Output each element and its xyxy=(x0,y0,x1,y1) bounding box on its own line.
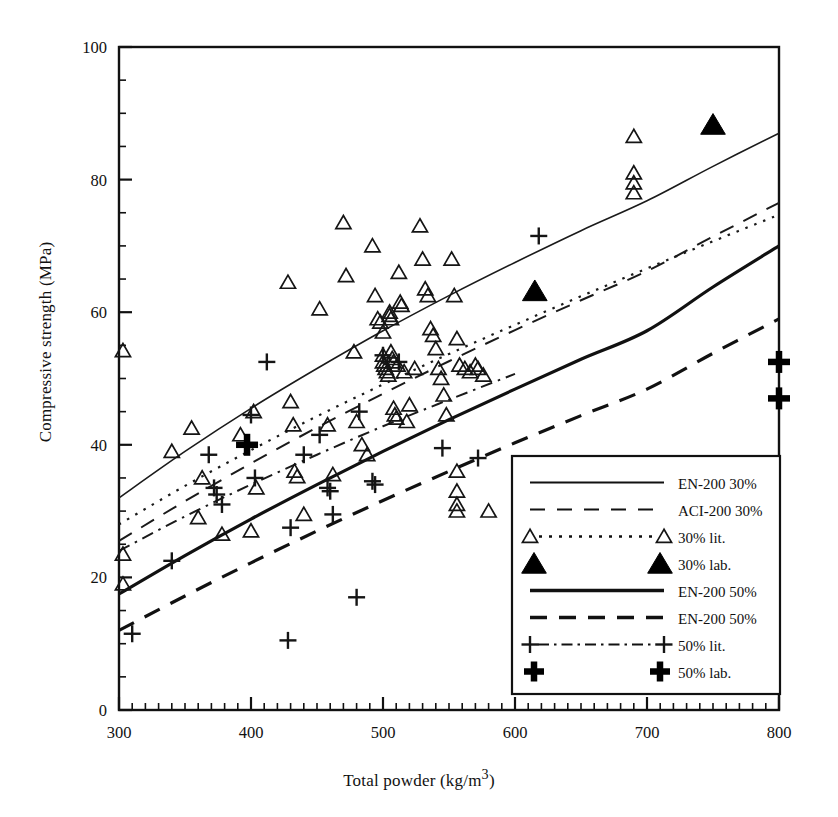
legend-label: EN-200 50% xyxy=(678,611,757,627)
legend-box: EN-200 30%ACI-200 30%30% lit.30% lab.EN-… xyxy=(512,456,780,694)
legend-label: ACI-200 30% xyxy=(678,503,763,519)
y-tick-label: 40 xyxy=(91,436,108,455)
x-tick-label: 700 xyxy=(635,723,660,742)
data-point-30-lit xyxy=(338,269,353,282)
legend-label: 50% lab. xyxy=(678,665,731,681)
data-point-50-lit xyxy=(530,227,547,244)
data-point-30-lit xyxy=(391,265,406,278)
x-tick-label: 600 xyxy=(503,723,528,742)
curve-lit_50 xyxy=(119,374,515,551)
data-point-lab_30 xyxy=(522,280,547,301)
data-point-50-lit xyxy=(364,473,381,490)
data-point-30-lit xyxy=(243,524,258,537)
x-tick-label: 800 xyxy=(767,723,792,742)
data-point-30-lit xyxy=(449,484,464,497)
data-point-lab_30 xyxy=(701,114,726,135)
x-axis-label: Total powder (kg/m3) xyxy=(0,766,838,791)
x-axis-label-text: Total powder (kg/m3) xyxy=(343,771,495,790)
data-point-30-lit xyxy=(481,504,496,517)
data-point-50-lit xyxy=(258,353,275,370)
data-point-30-lit xyxy=(349,414,364,427)
data-point-lab_50 xyxy=(236,434,258,456)
data-point-30-lit xyxy=(386,401,401,414)
data-point-lab_50 xyxy=(768,351,790,373)
data-point-30-lit xyxy=(280,275,295,288)
legend-label: 30% lab. xyxy=(678,557,731,573)
plot-canvas: 300400500600700800020406080100 EN-200 30… xyxy=(0,0,838,817)
data-point-50-lit xyxy=(470,450,487,467)
x-tick-label: 400 xyxy=(239,723,264,742)
x-tick-label: 500 xyxy=(371,723,396,742)
chart-figure: 300400500600700800020406080100 EN-200 30… xyxy=(0,0,838,817)
data-point-50-lit xyxy=(367,476,384,493)
legend-label: EN-200 50% xyxy=(678,584,757,600)
data-point-50-lit xyxy=(295,446,312,463)
data-point-30-lit xyxy=(283,395,298,408)
data-point-50-lit xyxy=(311,426,328,443)
data-point-50-lit xyxy=(322,483,339,500)
x-tick-label: 300 xyxy=(107,723,132,742)
data-point-50-lit xyxy=(246,469,263,486)
y-tick-label: 20 xyxy=(91,568,108,587)
data-point-50-lit xyxy=(279,632,296,649)
data-point-30-lit xyxy=(434,371,449,384)
data-point-30-lit xyxy=(402,398,417,411)
data-point-30-lit xyxy=(249,481,264,494)
data-point-30-lit xyxy=(296,507,311,520)
data-point-30-lit xyxy=(415,252,430,265)
data-point-30-lit xyxy=(312,302,327,315)
curve-en200_30 xyxy=(119,133,779,498)
data-point-50-lit xyxy=(282,519,299,536)
data-point-30-lit xyxy=(164,444,179,457)
data-point-30-lit xyxy=(365,239,380,252)
legend-label: EN-200 30% xyxy=(678,476,757,492)
data-point-30-lit xyxy=(444,252,459,265)
y-tick-label: 100 xyxy=(82,38,107,57)
data-point-30-lit xyxy=(336,215,351,228)
data-point-lab_50 xyxy=(768,387,790,409)
data-point-30-lit xyxy=(412,219,427,232)
y-axis-label: Compressive strength (MPa) xyxy=(36,192,56,492)
data-point-30-lit xyxy=(428,341,443,354)
data-point-30-lit xyxy=(449,332,464,345)
data-point-50-lit xyxy=(200,446,217,463)
data-point-30-lit xyxy=(368,288,383,301)
data-point-50-lit xyxy=(351,403,368,420)
data-point-50-lit xyxy=(348,589,365,606)
data-point-30-lit xyxy=(626,186,641,199)
data-point-30-lit xyxy=(626,129,641,142)
y-tick-label: 80 xyxy=(91,171,108,190)
data-point-30-lit xyxy=(184,421,199,434)
y-tick-label: 0 xyxy=(99,701,107,720)
data-point-30-lit xyxy=(286,418,301,431)
y-tick-label: 60 xyxy=(91,303,108,322)
data-point-50-lit xyxy=(434,440,451,457)
data-point-30-lit xyxy=(290,469,305,482)
legend-label: 30% lit. xyxy=(678,530,726,546)
legend-label: 50% lit. xyxy=(678,638,726,654)
